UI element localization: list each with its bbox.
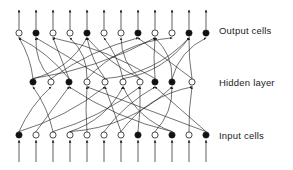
edges-hidden-to-output [19,38,206,79]
output-cell-8-active [135,30,141,36]
label-input-cells: Input cells [219,130,264,141]
input-cell-7-inactive [118,132,124,138]
hidden-cell-3-active [66,79,72,85]
output-cell-6-inactive [101,30,107,36]
input-cell-11-inactive [186,132,192,138]
hidden-cell-7-inactive [137,79,143,85]
input-cell-5-inactive [84,132,90,138]
hidden-cell-8-active [152,79,158,85]
input-cell-12-active [203,132,209,138]
hidden-cell-4-inactive [84,79,90,85]
output-cell-7-inactive [118,30,124,36]
hidden-cell-5-inactive [102,79,108,85]
hidden-cell-1-active [30,79,36,85]
output-cell-2-active [33,30,39,36]
output-cell-9-inactive [152,30,158,36]
label-hidden-layer: Hidden layer [219,77,275,88]
edges-input-to-hidden [19,87,206,132]
neural-network-diagram: Output cells Hidden layer Input cells [0,0,293,170]
output-cell-12-active [203,30,209,36]
input-cell-9-inactive [152,132,158,138]
output-cell-5-active [84,30,90,36]
input-cell-4-inactive [67,132,73,138]
label-output-cells: Output cells [219,25,272,36]
hidden-cell-10-inactive [189,79,195,85]
output-cell-10-inactive [169,30,175,36]
input-cell-2-inactive [33,132,39,138]
hidden-cell-6-inactive [120,79,126,85]
input-cell-3-inactive [50,132,56,138]
output-cell-11-active [186,30,192,36]
axon-stems [19,10,206,162]
hidden-cell-9-active [169,79,175,85]
input-cell-10-active [169,132,175,138]
output-cell-3-inactive [50,30,56,36]
input-cell-6-inactive [101,132,107,138]
output-cell-1-inactive [16,30,22,36]
output-cell-4-inactive [67,30,73,36]
input-cell-8-active [135,132,141,138]
hidden-cell-2-inactive [48,79,54,85]
input-cell-1-active [16,132,22,138]
